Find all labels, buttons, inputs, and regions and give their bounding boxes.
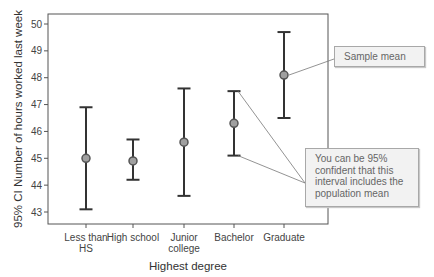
x-tick-label: Graduate <box>263 232 305 243</box>
y-tick-label: 43 <box>31 207 43 218</box>
y-tick-label: 44 <box>31 180 43 191</box>
error-bar <box>127 139 140 179</box>
mean-marker <box>280 71 288 79</box>
x-tick-label: Bachelor <box>214 232 254 243</box>
x-tick-label: Less than <box>64 232 107 243</box>
x-tick-label: High school <box>107 232 159 243</box>
ci-callout-line: interval includes the <box>315 176 418 188</box>
error-bar <box>80 107 93 209</box>
y-axis-title: 95% CI Number of hours worked last week <box>12 10 24 228</box>
y-tick-label: 49 <box>31 45 43 56</box>
y-tick-label: 50 <box>31 19 43 30</box>
mean-marker <box>180 138 188 146</box>
ci-callout-line: confident that this <box>315 165 418 177</box>
error-bar <box>228 91 241 155</box>
sample-mean-callout: Sample mean <box>334 46 425 67</box>
sample-mean-callout-text: Sample mean <box>344 51 406 62</box>
x-axis-title: Highest degree <box>149 260 227 272</box>
sample-mean-leader <box>289 59 334 75</box>
y-tick-label: 47 <box>31 99 43 110</box>
y-tick-label: 48 <box>31 72 43 83</box>
confidence-interval-callout: You can be 95% confident that this inter… <box>305 148 419 207</box>
mean-marker <box>82 154 90 162</box>
x-tick-label: HS <box>79 243 93 254</box>
x-axis: Less thanHSHigh schoolJuniorcollegeBache… <box>64 224 305 254</box>
error-bar <box>278 32 291 118</box>
x-tick-label: Junior <box>170 232 198 243</box>
error-bar-chart: 4344454647484950 Less thanHSHigh schoolJ… <box>0 0 434 277</box>
ci-callout-line: population mean <box>315 188 418 200</box>
y-tick-label: 45 <box>31 153 43 164</box>
error-bar <box>178 88 191 195</box>
error-bars <box>80 32 291 209</box>
x-tick-label: college <box>168 243 200 254</box>
y-tick-label: 46 <box>31 126 43 137</box>
ci-callout-line: You can be 95% <box>315 153 418 165</box>
mean-marker <box>129 157 137 165</box>
mean-marker <box>230 119 238 127</box>
y-axis: 4344454647484950 <box>31 19 48 218</box>
